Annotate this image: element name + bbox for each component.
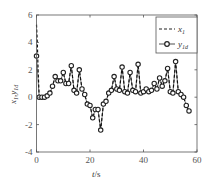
series-y1d-marker	[128, 70, 132, 74]
series-y1d-marker	[152, 81, 156, 85]
x-tick-label: 0	[34, 155, 39, 165]
series-y1d-marker	[58, 79, 62, 83]
series-y1d-marker	[181, 95, 185, 99]
y-tick-label: -4	[25, 147, 33, 157]
series-y1d-marker	[155, 87, 159, 91]
series-y1d-marker	[184, 103, 188, 107]
series-y1d-marker	[149, 88, 153, 92]
series-y1d-marker	[66, 81, 70, 85]
series-y1d-marker	[160, 84, 164, 88]
series-y1d-marker	[187, 109, 191, 113]
series-y1d-marker	[83, 92, 87, 96]
series-y1d-marker	[61, 70, 65, 74]
series-y1d-marker	[74, 91, 78, 95]
series-y1d-marker	[157, 76, 161, 80]
series-y1d-marker	[165, 66, 169, 70]
series-y1d-marker	[125, 91, 129, 95]
series-y1d-marker	[69, 63, 73, 67]
y-tick-label: -2	[25, 120, 33, 130]
series-y1d-marker	[48, 91, 52, 95]
series-y1d-marker	[171, 91, 175, 95]
series-y1d-marker	[117, 88, 121, 92]
x-tick-label: 40	[139, 155, 149, 165]
legend-box	[156, 17, 197, 53]
y-axis-label: x1,y1d	[8, 84, 19, 105]
series-y1d-marker	[112, 74, 116, 78]
x-axis-label: t/s	[92, 169, 101, 179]
series-y1d-marker	[99, 128, 103, 132]
y-tick-label: 2	[28, 65, 33, 75]
series-y1d-marker	[163, 79, 167, 83]
y-tick-label: 4	[28, 37, 33, 47]
series-y1d-marker	[88, 103, 92, 107]
x-tick-label: 60	[193, 155, 203, 165]
series-y1d-marker	[120, 65, 124, 69]
y-tick-label: 0	[28, 92, 33, 102]
series-y1d-marker	[77, 68, 81, 72]
series-y1d-marker	[53, 74, 57, 78]
legend-y1d-marker	[165, 42, 170, 47]
series-y1d-marker	[136, 62, 140, 66]
series-y1d-marker	[96, 107, 100, 111]
x-tick-label: 20	[86, 155, 96, 165]
series-y1d-marker	[133, 90, 137, 94]
line-chart: 0204060-4-20246 x1 y1d t/s x1,y1d	[0, 0, 210, 186]
series-y1d-marker	[50, 84, 54, 88]
y-tick-label: 6	[28, 10, 33, 20]
series-y1d-marker	[173, 59, 177, 63]
series-y1d-marker	[80, 87, 84, 91]
series-y1d-marker	[104, 99, 108, 103]
series-y1d-marker	[91, 116, 95, 120]
series-y1d-marker	[109, 88, 113, 92]
legend: x1 y1d	[156, 17, 197, 53]
